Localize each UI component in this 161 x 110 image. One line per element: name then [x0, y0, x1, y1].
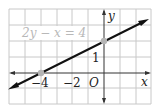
coordinate-graph: 2y − x = 4 y x O −4 −2 1	[0, 0, 161, 110]
tick-label-neg4: −4	[31, 76, 49, 90]
x-axis-left-arrow-icon	[9, 71, 15, 75]
tick-label-1: 1	[92, 51, 100, 65]
y-axis-label: y	[107, 9, 115, 23]
equation-label: 2y − x = 4	[21, 26, 86, 40]
y-intercept-point	[101, 38, 107, 44]
origin-label: O	[89, 76, 99, 90]
y-axis-down-arrow-icon	[102, 98, 106, 104]
x-axis-label: x	[141, 75, 148, 89]
y-axis-up-arrow-icon	[102, 9, 106, 15]
tick-label-neg2: −2	[63, 76, 81, 90]
